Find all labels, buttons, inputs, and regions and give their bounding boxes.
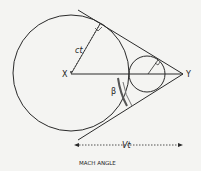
large-wavefront-circle — [13, 15, 129, 131]
right-angle-mark-small — [155, 62, 160, 65]
caption: MACH ANGLE — [79, 160, 116, 166]
y-point-label: Y — [185, 70, 191, 79]
x-point-dot — [70, 71, 72, 73]
vt-arrow-left-icon — [74, 143, 79, 147]
mach-angle-diagram: X Y ct β Vt MACH ANGLE — [0, 0, 201, 171]
vt-arrow-right-icon — [178, 143, 183, 147]
ct-label: ct — [75, 46, 83, 55]
x-point-label: X — [62, 70, 68, 79]
vt-label: Vt — [122, 141, 131, 150]
small-radius-line — [148, 60, 158, 74]
lower-tangent-line — [78, 74, 183, 140]
beta-label: β — [111, 87, 116, 96]
upper-tangent-line — [78, 10, 183, 74]
